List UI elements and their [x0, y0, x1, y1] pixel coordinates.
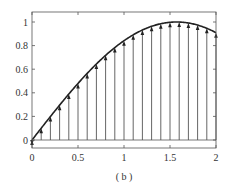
figure-caption: ( b ) — [116, 171, 133, 183]
y-tick-label: 0.2 — [16, 111, 29, 122]
y-tick-label: 0 — [23, 135, 28, 146]
chart: 00.20.40.60.81 00.511.52 ( b ) — [0, 0, 230, 190]
y-tick-label: 0.6 — [16, 64, 29, 75]
x-tick-label: 1.5 — [164, 152, 177, 163]
x-tick-label: 1 — [122, 152, 127, 163]
x-tick-label: 2 — [214, 152, 219, 163]
y-tick-label: 0.4 — [16, 87, 29, 98]
y-tick-label: 0.8 — [16, 40, 29, 51]
x-tick-label: 0 — [30, 152, 35, 163]
y-tick-label: 1 — [23, 17, 28, 28]
x-tick-label: 0.5 — [72, 152, 85, 163]
y-axis: 00.20.40.60.81 — [16, 17, 217, 146]
